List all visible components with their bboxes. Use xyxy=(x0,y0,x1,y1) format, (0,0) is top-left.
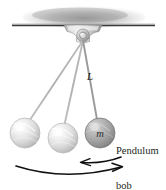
swing-arrows xyxy=(16,157,123,174)
pendulum-bob-caption: Pendulum bob xyxy=(116,121,159,190)
bob-right: m xyxy=(85,118,115,148)
pendulum-bob-caption-line2: bob xyxy=(116,180,159,190)
pendulum-figure: m L Pendulum bob xyxy=(0,0,166,190)
swing-arrow-right-arc xyxy=(16,166,121,174)
bob-middle xyxy=(48,123,78,153)
length-label: L xyxy=(87,70,93,82)
bob-left xyxy=(10,118,40,148)
pendulum-bob-caption-line1: Pendulum xyxy=(116,145,159,157)
mass-label: m xyxy=(96,128,104,139)
pendulum-strings xyxy=(30,41,98,125)
